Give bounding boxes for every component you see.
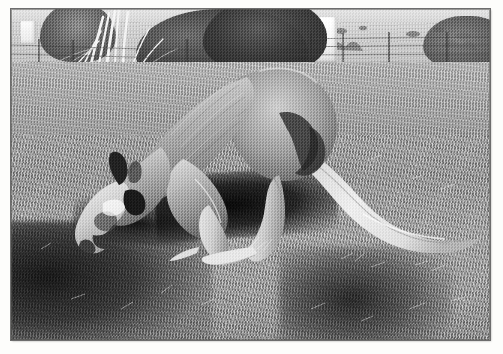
- caption-area: [0, 342, 503, 354]
- grass-detail: [11, 9, 490, 340]
- photo-page: [0, 0, 503, 354]
- photograph: [11, 9, 490, 340]
